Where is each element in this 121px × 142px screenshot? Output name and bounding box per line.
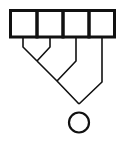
edge-cell-1 [37, 38, 50, 61]
edge-cell-3 [79, 38, 102, 104]
array-cells [11, 11, 115, 38]
reduction-tree-diagram [0, 0, 121, 142]
cell-1 [37, 11, 63, 38]
edge-merge-chain [37, 61, 79, 104]
result-node [69, 113, 89, 133]
cell-2 [63, 11, 89, 38]
merge-tree [23, 38, 102, 104]
cell-3 [89, 11, 115, 38]
edge-cell-0 [23, 38, 37, 61]
cell-0 [11, 11, 38, 38]
edge-cell-2 [57, 38, 76, 81]
